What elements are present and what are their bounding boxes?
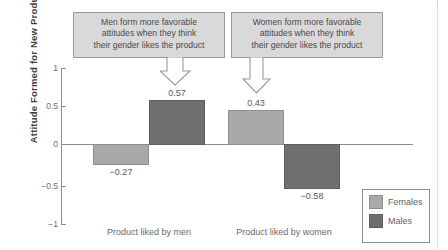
y-axis-line	[61, 68, 62, 225]
bar-value-females-group-2: 0.43	[226, 98, 286, 108]
x-category-label-1: Product liked by men	[84, 227, 214, 237]
callout-men-line-2: attitudes when they think	[78, 28, 220, 39]
callout-women-line-2: attitudes when they think	[236, 28, 378, 39]
legend-label-males: Males	[388, 216, 412, 226]
x-category-label-2: Product liked by women	[219, 227, 349, 237]
y-tick-label-0_5: 0.5	[18, 101, 58, 111]
bar-females-group-2[interactable]	[228, 110, 284, 145]
legend-swatch-females-icon	[369, 195, 383, 209]
legend-item-females[interactable]: Females	[369, 195, 429, 209]
callout-women: Women form more favorable attitudes when…	[231, 12, 383, 58]
callout-women-line-3: their gender likes the product	[236, 40, 378, 51]
bar-value-females-group-1: −0.27	[91, 167, 151, 177]
legend-item-males[interactable]: Males	[369, 214, 429, 228]
callout-men-line-1: Men form more favorable	[78, 17, 220, 28]
callout-women-arrow-icon	[242, 57, 276, 95]
callout-men-arrow-icon	[160, 57, 194, 87]
bar-value-males-group-2: −0.58	[282, 191, 342, 201]
callout-women-line-1: Women form more favorable	[236, 17, 378, 28]
y-tick-label-1: 1	[18, 63, 58, 73]
chart-figure: Attitude Formed for New Product 1 0.5 0 …	[0, 0, 448, 250]
y-tick-label-0: 0	[18, 139, 58, 149]
y-axis-title: Attitude Formed for New Product	[28, 0, 39, 151]
y-tick-neg0_5	[61, 186, 66, 187]
bar-males-group-1[interactable]	[149, 100, 205, 145]
y-tick-label-neg0_5: −0.5	[18, 181, 58, 191]
y-tick-label-neg1: −1	[18, 219, 58, 229]
legend: Females Males	[362, 189, 430, 243]
legend-label-females: Females	[388, 197, 423, 207]
legend-swatch-males-icon	[369, 214, 383, 228]
y-tick-neg1	[61, 224, 66, 225]
page-edge-rule	[437, 0, 438, 250]
callout-men-line-3: their gender likes the product	[78, 40, 220, 51]
callout-men: Men form more favorable attitudes when t…	[73, 12, 225, 58]
bar-males-group-2[interactable]	[284, 144, 340, 189]
y-tick-0_5	[61, 106, 66, 107]
y-tick-1	[61, 68, 66, 69]
bar-value-males-group-1: 0.57	[147, 88, 207, 98]
bar-females-group-1[interactable]	[93, 144, 149, 165]
